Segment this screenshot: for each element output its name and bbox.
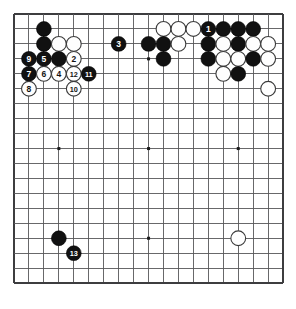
stone-black-move-9[interactable]: 9 [22, 51, 37, 66]
black-stone-body [231, 66, 246, 81]
white-stone-body [186, 22, 201, 37]
stone-black[interactable] [37, 22, 52, 37]
black-stone-body [81, 66, 96, 81]
stone-white[interactable] [66, 37, 81, 52]
stone-black[interactable] [51, 231, 66, 246]
stone-black[interactable] [246, 51, 261, 66]
go-board-canvas[interactable]: 95276412118103113 [0, 0, 296, 309]
stone-black-move-11[interactable]: 11 [81, 66, 96, 81]
stone-black[interactable] [231, 66, 246, 81]
black-stone-body [246, 22, 261, 37]
stone-white-move-12[interactable]: 12 [66, 66, 81, 81]
stone-black[interactable] [216, 22, 231, 37]
black-stone-body [37, 51, 52, 66]
white-stone-body [246, 37, 261, 52]
stone-black[interactable] [231, 37, 246, 52]
stone-black-move-13[interactable]: 13 [66, 246, 81, 261]
black-stone-body [22, 66, 37, 81]
white-stone-body [51, 66, 66, 81]
black-stone-body [201, 22, 216, 37]
star-point [57, 147, 60, 150]
stone-black[interactable] [51, 51, 66, 66]
white-stone-body [22, 81, 37, 96]
stone-black[interactable] [231, 22, 246, 37]
stone-white[interactable] [231, 231, 246, 246]
stone-black-move-1[interactable]: 1 [201, 22, 216, 37]
black-stone-body [37, 22, 52, 37]
stone-white[interactable] [51, 37, 66, 52]
stone-white[interactable] [261, 81, 276, 96]
black-stone-body [216, 22, 231, 37]
white-stone-body [261, 37, 276, 52]
stone-white[interactable] [231, 51, 246, 66]
black-stone-body [22, 51, 37, 66]
star-point [237, 147, 240, 150]
stone-white-move-4[interactable]: 4 [51, 66, 66, 81]
white-stone-body [171, 37, 186, 52]
stone-white-move-10[interactable]: 10 [66, 81, 81, 96]
black-stone-body [246, 51, 261, 66]
white-stone-body [156, 22, 171, 37]
white-stone-body [216, 51, 231, 66]
stone-white[interactable] [261, 51, 276, 66]
white-stone-body [66, 37, 81, 52]
stone-black[interactable] [37, 37, 52, 52]
stone-black-move-7[interactable]: 7 [22, 66, 37, 81]
go-diagram-page: 95276412118103113 [0, 0, 296, 309]
black-stone-body [37, 37, 52, 52]
black-stone-body [111, 37, 126, 52]
stone-black[interactable] [246, 22, 261, 37]
white-stone-body [216, 37, 231, 52]
star-point [147, 57, 150, 60]
black-stone-body [156, 51, 171, 66]
black-stone-body [231, 22, 246, 37]
black-stone-body [156, 37, 171, 52]
stone-white-move-6[interactable]: 6 [37, 66, 52, 81]
black-stone-body [51, 231, 66, 246]
stone-black[interactable] [141, 37, 156, 52]
stone-white[interactable] [171, 37, 186, 52]
black-stone-body [201, 51, 216, 66]
stone-white[interactable] [246, 37, 261, 52]
white-stone-body [261, 51, 276, 66]
white-stone-body [231, 231, 246, 246]
star-point [147, 237, 150, 240]
white-stone-body [37, 66, 52, 81]
stone-black[interactable] [156, 51, 171, 66]
black-stone-body [51, 51, 66, 66]
go-board[interactable]: 95276412118103113 [0, 0, 296, 309]
black-stone-body [201, 37, 216, 52]
stone-white[interactable] [216, 51, 231, 66]
white-stone-body [66, 51, 81, 66]
stone-white[interactable] [186, 22, 201, 37]
stone-white[interactable] [171, 22, 186, 37]
black-stone-body [141, 37, 156, 52]
stone-black[interactable] [201, 37, 216, 52]
white-stone-body [66, 66, 81, 81]
white-stone-body [51, 37, 66, 52]
stone-black[interactable] [156, 37, 171, 52]
white-stone-body [216, 66, 231, 81]
stone-white[interactable] [156, 22, 171, 37]
stone-white[interactable] [216, 37, 231, 52]
stone-white-move-8[interactable]: 8 [22, 81, 37, 96]
white-stone-body [231, 51, 246, 66]
stone-black[interactable] [201, 51, 216, 66]
black-stone-body [66, 246, 81, 261]
stone-white-move-2[interactable]: 2 [66, 51, 81, 66]
white-stone-body [171, 22, 186, 37]
star-point [147, 147, 150, 150]
stone-white[interactable] [216, 66, 231, 81]
stone-white[interactable] [261, 37, 276, 52]
stone-black-move-3[interactable]: 3 [111, 37, 126, 52]
white-stone-body [261, 81, 276, 96]
white-stone-body [66, 81, 81, 96]
stone-black-move-5[interactable]: 5 [37, 51, 52, 66]
black-stone-body [231, 37, 246, 52]
